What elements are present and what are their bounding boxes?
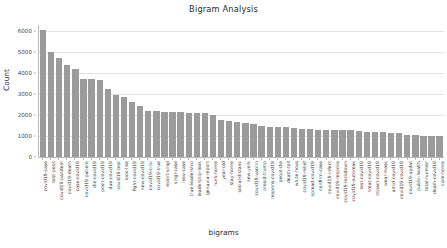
bar (129, 102, 135, 157)
bar (210, 115, 216, 157)
x-tick-mark (228, 158, 229, 160)
y-tick-label: 4000 (18, 70, 32, 76)
bar (153, 111, 159, 157)
x-tick: case-covid19 (70, 158, 78, 220)
bar (356, 131, 362, 157)
bar (48, 52, 54, 157)
x-tick: confirm-case (313, 158, 321, 220)
bar (258, 126, 264, 157)
x-tick-mark (131, 158, 132, 160)
x-tick-mark (301, 158, 302, 160)
bar (323, 130, 329, 157)
plot-area (38, 25, 444, 158)
x-tick-mark (366, 158, 367, 160)
y-tick-label: 1000 (18, 133, 32, 139)
bar (283, 127, 289, 157)
y-tick-mark (34, 94, 37, 95)
x-tick: covid19-relief (297, 158, 305, 220)
x-tick: year-old (216, 158, 224, 220)
y-tick-mark (34, 73, 37, 74)
bar (242, 123, 248, 157)
x-tick-mark (66, 158, 67, 160)
x-tick: fight-covid19 (127, 158, 135, 220)
x-tick: leadership-look (192, 158, 200, 220)
x-tick-mark (139, 158, 140, 160)
bar (202, 113, 208, 157)
x-tick-mark (147, 158, 148, 160)
x-tick-mark (390, 158, 391, 160)
x-tick: test-posit (46, 158, 54, 220)
x-tick-mark (326, 158, 327, 160)
bar (105, 89, 111, 157)
x-tick: covid19-vaccin (249, 158, 257, 220)
x-tick: death-covid19 (427, 158, 435, 220)
bar (80, 79, 86, 157)
x-axis-label: bigrams (0, 228, 447, 237)
x-tick-mark (212, 158, 213, 160)
x-tick-mark (431, 158, 432, 160)
x-tick: singl-case (168, 158, 176, 220)
x-tick-mark (423, 158, 424, 160)
x-tick-mark (245, 158, 246, 160)
x-tick: covid19-outbreak (346, 158, 354, 220)
x-tick: amid-covid19 (386, 158, 394, 220)
x-tick-mark (196, 158, 197, 160)
bar (412, 135, 418, 157)
x-tick-mark (74, 158, 75, 160)
x-tick: covid19-respons (330, 158, 338, 220)
y-tick-mark (34, 157, 37, 158)
x-tick: care-home (435, 158, 443, 220)
x-tick-mark (123, 158, 124, 160)
bar (299, 129, 305, 157)
x-tick-mark (164, 158, 165, 160)
x-tick: genuvia-report (200, 158, 208, 220)
x-tick: covid19-infect (322, 158, 330, 220)
x-tick-mark (155, 158, 156, 160)
bar (186, 113, 192, 157)
x-tick: new-york (241, 158, 249, 220)
bar (64, 65, 70, 157)
y-tick-label: 6000 (18, 28, 32, 34)
x-tick: social-distanc (232, 158, 240, 220)
x-tick: covid19-patient (79, 158, 87, 220)
bar (275, 127, 281, 157)
x-tick: nurs-home (208, 158, 216, 220)
bar (161, 112, 167, 157)
x-tick-mark (107, 158, 108, 160)
y-tick-label: 3000 (18, 91, 32, 97)
bar (40, 30, 46, 157)
bar (420, 136, 426, 157)
bar (56, 58, 62, 157)
x-tick: covid19-pandem (54, 158, 62, 220)
bar (137, 106, 143, 157)
x-tick: covid19-death (62, 158, 70, 220)
bar (250, 124, 256, 157)
bar (347, 130, 353, 157)
x-tick: new-case (176, 158, 184, 220)
x-tick-mark (42, 158, 43, 160)
x-tick-mark (398, 158, 399, 160)
x-tick: total-number (419, 158, 427, 220)
bar (404, 135, 410, 157)
x-tick-mark (407, 158, 408, 160)
x-tick: covid19-updat (403, 158, 411, 220)
bar (291, 128, 297, 157)
x-tick: covid19-true (151, 158, 159, 220)
y-tick-label: 2000 (18, 112, 32, 118)
bar-series (39, 25, 444, 157)
x-tick: covid19-case (38, 158, 46, 220)
x-tick-label: care-home (441, 161, 446, 186)
y-tick-mark (34, 31, 37, 32)
x-tick-mark (261, 158, 262, 160)
y-tick-mark (34, 136, 37, 137)
x-tick-mark (91, 158, 92, 160)
bar (307, 129, 313, 157)
x-tick: new-covid19 (135, 158, 143, 220)
bar (218, 120, 224, 157)
x-tick: impact-covid19 (370, 158, 378, 220)
bar (177, 112, 183, 157)
bar (194, 113, 200, 157)
x-tick-mark (172, 158, 173, 160)
x-tick-mark (83, 158, 84, 160)
x-tick: wear-mask (378, 158, 386, 220)
